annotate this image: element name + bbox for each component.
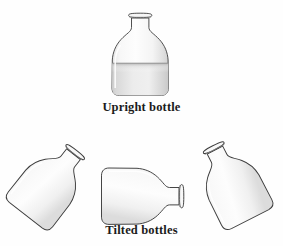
- bottle-figure: Upright bottle Tilted bottles: [0, 0, 283, 246]
- tilted-bottle-right-body: [190, 137, 275, 232]
- bottle-illustration-canvas: [0, 0, 283, 246]
- upright-bottle-liquid: [108, 63, 174, 97]
- tilted-bottle-right: [188, 133, 276, 232]
- tilted-bottle-middle-body: [102, 168, 180, 224]
- tilted-bottle-left: [4, 133, 99, 233]
- tilted-bottles-caption: Tilted bottles: [0, 223, 283, 238]
- tilted-bottle-middle: [102, 168, 184, 224]
- tilted-bottle-middle-lip: [179, 185, 183, 208]
- upright-bottle-caption: Upright bottle: [0, 100, 283, 115]
- upright-bottle: [108, 13, 174, 97]
